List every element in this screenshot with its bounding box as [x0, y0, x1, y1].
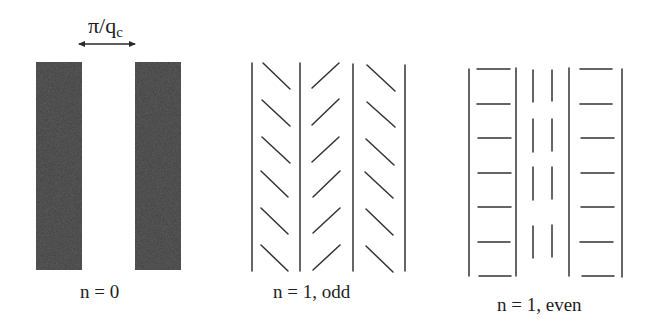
- lamellar-phases-diagram: π/qc n = 0 n = 1, odd n = 1, even: [0, 0, 654, 334]
- caption-n1-even: n = 1, even: [497, 294, 582, 316]
- caption-n0: n = 0: [80, 281, 119, 303]
- caption-n1-odd: n = 1, odd: [273, 281, 350, 303]
- panel-n1-even: [469, 68, 622, 277]
- panel-n0: [36, 44, 181, 270]
- period-subscript: c: [116, 24, 123, 40]
- period-label: π/qc: [88, 13, 123, 41]
- shaded-bar-left: [36, 62, 82, 270]
- shaded-bar-right: [135, 62, 181, 270]
- panel-n1-odd: [252, 63, 405, 272]
- period-symbol: π/q: [88, 13, 116, 38]
